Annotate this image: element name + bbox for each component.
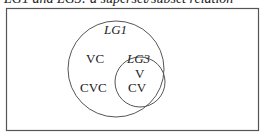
lg3-label: LG3 [126, 51, 151, 66]
venn-diagram: LG1 VC CVC LG3 V CV [0, 0, 264, 136]
member-cvc: CVC [80, 80, 107, 95]
member-v: V [135, 66, 145, 81]
member-cv: CV [128, 80, 147, 95]
lg1-label: LG1 [103, 22, 127, 37]
universe-rectangle [7, 9, 259, 131]
member-vc: VC [86, 51, 104, 66]
